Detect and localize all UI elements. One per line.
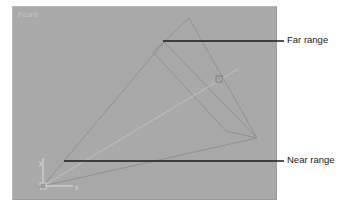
cone-edge-lower — [43, 138, 257, 186]
cone-apex-left — [164, 18, 189, 42]
near-plane-bottom-edge — [226, 131, 257, 138]
axis-gizmo — [40, 158, 73, 189]
near-range-label: Near range — [287, 154, 335, 165]
front-viewport[interactable]: Front — [12, 6, 277, 200]
center-axis-line — [43, 69, 238, 186]
frustum-near-plane — [153, 42, 257, 138]
diagram-stage: Front — [0, 0, 363, 213]
cone-edge-upper-left — [43, 42, 164, 186]
axis-x-label: x — [75, 184, 79, 191]
far-range-label: Far range — [287, 34, 328, 45]
near-plane-top-edge — [153, 42, 164, 52]
frustum-outer-cone — [43, 18, 257, 186]
axis-y-label: y — [39, 159, 43, 166]
frustum-center-axis — [43, 69, 238, 186]
axis-z-label: z — [38, 184, 41, 191]
wireframe-canvas — [13, 7, 277, 200]
